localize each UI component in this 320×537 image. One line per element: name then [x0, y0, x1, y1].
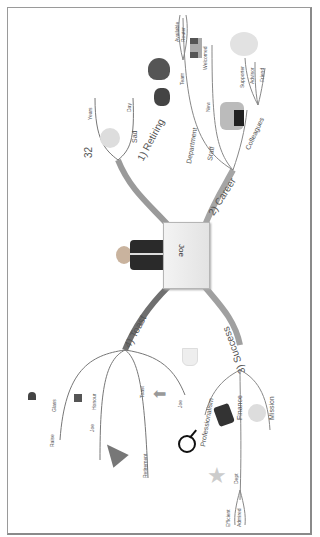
brain-icon — [230, 32, 258, 56]
node-honour[interactable]: Honour — [92, 394, 97, 410]
node-joe-toast[interactable]: Joe — [178, 400, 183, 408]
node-admired[interactable]: Admired — [237, 508, 242, 527]
sad-face-icon — [100, 128, 120, 148]
node-new[interactable]: New — [206, 102, 211, 112]
people-icon — [220, 102, 244, 130]
node-efficient[interactable]: Efficient — [226, 509, 231, 527]
node-friend[interactable]: Friend — [260, 68, 265, 82]
node-joe-honour[interactable]: Joe — [90, 424, 95, 432]
node-team[interactable]: Team — [180, 73, 185, 85]
node-sad[interactable]: Sad — [131, 131, 138, 143]
node-day[interactable]: Day — [127, 103, 132, 112]
glass-icon — [28, 392, 36, 400]
medal-icon — [74, 394, 82, 402]
node-dept[interactable]: Dept — [234, 473, 239, 484]
central-node-label: Joe — [177, 244, 186, 257]
businessman-icon — [116, 238, 164, 272]
node-finance[interactable]: Finance — [236, 395, 243, 420]
smiley-icon — [248, 404, 266, 422]
node-advisor[interactable]: Advisor — [250, 67, 255, 84]
node-retirement[interactable]: Retirement — [143, 454, 148, 478]
trophy-icon — [182, 348, 198, 366]
flowers-icon — [154, 88, 170, 106]
heart-icon — [148, 58, 170, 80]
node-toast[interactable]: Toast — [140, 386, 145, 398]
star-icon: ★ — [207, 465, 227, 487]
magnifier-icon — [178, 435, 196, 453]
central-node[interactable] — [163, 222, 210, 289]
welcomed-icon — [190, 38, 202, 58]
node-glass[interactable]: Glass — [52, 399, 57, 412]
node-raise[interactable]: Raise — [50, 434, 55, 447]
node-32[interactable]: 32 — [84, 147, 94, 158]
node-supporter[interactable]: Supporter — [240, 66, 245, 88]
node-welcomed[interactable]: Welcomed — [203, 46, 208, 70]
node-mission[interactable]: Mission — [268, 396, 275, 420]
node-years[interactable]: Years — [88, 107, 93, 120]
node-router[interactable]: Router — [181, 27, 186, 42]
arrow-icon: ⬅ — [153, 386, 166, 402]
